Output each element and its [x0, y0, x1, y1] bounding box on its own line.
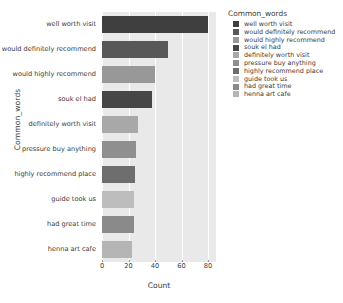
legend: Common_words well worth visitwould defin… [228, 9, 340, 99]
bar-row [102, 237, 216, 262]
bar-series [102, 12, 216, 262]
legend-label: henna art cafe [244, 91, 291, 97]
bar-row [102, 12, 216, 37]
legend-item[interactable]: would highly recommend [228, 37, 340, 43]
legend-swatch-icon [233, 60, 239, 66]
legend-label: highly recommend place [244, 68, 323, 74]
bar-row [102, 37, 216, 62]
legend-item[interactable]: highly recommend place [228, 68, 340, 74]
y-axis-tick-label: well worth visit [10, 12, 99, 37]
x-axis-tick-labels: 020406080 [102, 263, 216, 273]
bar [102, 191, 134, 208]
legend-item[interactable]: pressure buy anything [228, 60, 340, 66]
bar [102, 91, 152, 108]
legend-item[interactable]: henna art cafe [228, 91, 340, 97]
legend-swatch-icon [233, 21, 239, 27]
legend-label: well worth visit [244, 21, 292, 27]
legend-item[interactable]: definitely worth visit [228, 52, 340, 58]
bar [102, 16, 208, 33]
x-axis-tick-label: 60 [177, 263, 185, 270]
y-axis-tick-label: would highly recommend [10, 62, 99, 87]
legend-swatch-icon [233, 29, 239, 35]
y-axis-tick-label: highly recommend place [10, 162, 99, 187]
legend-swatch-icon [233, 84, 239, 90]
legend-label: pressure buy anything [244, 60, 316, 66]
legend-item[interactable]: souk el had [228, 44, 340, 50]
legend-swatch-icon [233, 91, 239, 97]
bar-row [102, 187, 216, 212]
x-axis-tick-label: 80 [204, 263, 212, 270]
y-axis-tick-label: souk el had [10, 87, 99, 112]
bar [102, 141, 136, 158]
x-axis-tick-label: 20 [124, 263, 132, 270]
legend-swatch-icon [233, 76, 239, 82]
bar [102, 166, 135, 183]
legend-label: had great time [244, 83, 291, 89]
bar-row [102, 162, 216, 187]
y-axis-tick-label: guide took us [10, 187, 99, 212]
legend-item[interactable]: well worth visit [228, 21, 340, 27]
x-axis-title: Count [102, 281, 216, 290]
bar-row [102, 87, 216, 112]
legend-swatch-icon [233, 52, 239, 58]
legend-item[interactable]: had great time [228, 83, 340, 89]
legend-label: definitely worth visit [244, 52, 309, 58]
y-axis-tick-label: pressure buy anything [10, 137, 99, 162]
legend-label: would definitely recommend [244, 29, 335, 35]
x-axis-tick-label: 40 [151, 263, 159, 270]
bar [102, 216, 134, 233]
bar [102, 116, 138, 133]
y-axis-tick-label: had great time [10, 212, 99, 237]
legend-items: well worth visitwould definitely recomme… [228, 21, 340, 98]
legend-title: Common_words [228, 9, 340, 18]
legend-label: guide took us [244, 76, 287, 82]
bar-row [102, 137, 216, 162]
bar-row [102, 112, 216, 137]
legend-label: would highly recommend [244, 37, 325, 43]
y-axis-tick-label: would definitely recommend [10, 37, 99, 62]
legend-swatch-icon [233, 68, 239, 74]
legend-swatch-icon [233, 37, 239, 43]
legend-item[interactable]: guide took us [228, 76, 340, 82]
bar-chart-figure: Common_words well worth visitwould defin… [0, 0, 343, 303]
y-axis-tick-label: definitely worth visit [10, 112, 99, 137]
plot-area [102, 12, 216, 262]
bar-row [102, 212, 216, 237]
bar [102, 241, 132, 258]
x-axis-tick-label: 0 [100, 263, 104, 270]
legend-label: souk el had [244, 44, 281, 50]
bar [102, 66, 155, 83]
legend-item[interactable]: would definitely recommend [228, 29, 340, 35]
y-axis-tick-labels: well worth visitwould definitely recomme… [10, 12, 99, 262]
bar [102, 41, 168, 58]
legend-swatch-icon [233, 45, 239, 51]
y-axis-tick-label: henna art cafe [10, 237, 99, 262]
bar-row [102, 62, 216, 87]
